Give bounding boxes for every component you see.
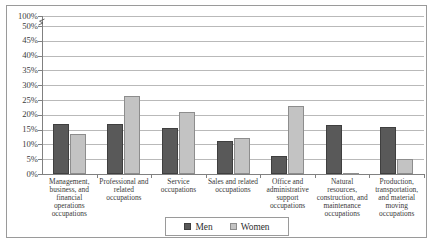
legend-swatch-men-icon (184, 223, 191, 230)
bar-women (397, 159, 413, 174)
y-axis-line (42, 16, 43, 174)
y-axis-tick-label: 0% (0, 170, 38, 179)
bar-men (271, 156, 287, 174)
x-axis-tick-mark (424, 174, 425, 178)
y-axis-tick-label: 15% (0, 125, 38, 134)
y-axis-tick-label: 35% (0, 66, 38, 75)
y-axis-tick-label: 10% (0, 140, 38, 149)
bar-men (162, 128, 178, 174)
bar-men (380, 127, 396, 174)
bar-women (343, 173, 359, 175)
legend-label-women: Women (241, 222, 270, 232)
chart-legend: Men Women (165, 217, 289, 236)
bar-women (124, 96, 140, 174)
y-axis-tick-label: 20% (0, 110, 38, 119)
gridline (42, 70, 424, 71)
bar-men (107, 124, 123, 174)
bar-women (234, 138, 250, 174)
axis-break-icon (37, 17, 48, 28)
y-axis-tick-label: 100% (0, 12, 38, 21)
bar-women (179, 112, 195, 174)
y-axis-tick-label: 45% (0, 36, 38, 45)
gridline (42, 85, 424, 86)
x-axis-category-label: Natural resources, construction, and mai… (316, 178, 369, 218)
gridline (42, 130, 424, 131)
legend-item-women: Women (230, 222, 270, 232)
y-axis-tick-label: 50% (0, 22, 38, 31)
bar-men (53, 124, 69, 174)
x-axis-category-label: Production, transportation, and material… (370, 178, 423, 218)
x-axis-category-label: Service occupations (152, 178, 205, 194)
gridline (42, 56, 424, 57)
bar-men (217, 141, 233, 174)
bar-women (288, 106, 304, 174)
bar-women (70, 134, 86, 174)
legend-swatch-women-icon (230, 223, 237, 230)
legend-item-men: Men (184, 222, 212, 232)
gridline (42, 41, 424, 42)
bar-chart-figure: 100%50%45%40%35%30%25%20%15%10%5%0% Mana… (0, 0, 434, 246)
gridline (42, 16, 424, 17)
y-axis-tick-label: 30% (0, 81, 38, 90)
y-axis-tick-label: 40% (0, 51, 38, 60)
x-axis-line (42, 174, 424, 175)
legend-label-men: Men (195, 222, 212, 232)
gridline (42, 26, 424, 27)
y-axis-tick-label: 5% (0, 155, 38, 164)
y-axis-tick-label: 25% (0, 96, 38, 105)
bar-men (326, 125, 342, 174)
x-axis-category-label: Professional and related occupations (98, 178, 151, 202)
gridline (42, 100, 424, 101)
x-axis-category-label: Management, business, and financial oper… (43, 178, 96, 218)
x-axis-category-label: Sales and related occupations (207, 178, 260, 194)
gridline (42, 115, 424, 116)
x-axis-category-label: Office and administrative support occupa… (261, 178, 314, 210)
